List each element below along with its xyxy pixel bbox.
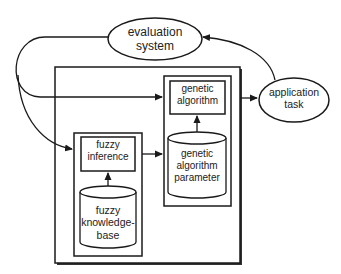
label-line: fuzzy xyxy=(81,139,135,151)
label-line: genetic xyxy=(168,148,226,160)
application-task-label: application task xyxy=(260,86,328,111)
label-line: genetic xyxy=(170,83,225,95)
label-line: parameter xyxy=(168,172,226,184)
label-line: algorithm xyxy=(168,160,226,172)
fuzzy-inference-label: fuzzy inference xyxy=(81,139,135,163)
label-line: inference xyxy=(81,151,135,163)
diagram-canvas: evaluation system application task genet… xyxy=(0,0,341,274)
label-line: system xyxy=(112,39,198,53)
label-line: fuzzy xyxy=(80,204,136,216)
evaluation-system-label: evaluation system xyxy=(112,25,198,53)
genetic-algorithm-label: genetic algorithm xyxy=(170,83,225,107)
ga-parameter-label: genetic algorithm parameter xyxy=(168,148,226,183)
label-line: base xyxy=(80,229,136,241)
label-line: algorithm xyxy=(170,95,225,107)
label-line: task xyxy=(260,98,328,110)
label-line: knowledge- xyxy=(80,216,136,228)
label-line: evaluation xyxy=(112,25,198,39)
label-line: application xyxy=(260,86,328,98)
fuzzy-kb-label: fuzzy knowledge- base xyxy=(80,204,136,241)
